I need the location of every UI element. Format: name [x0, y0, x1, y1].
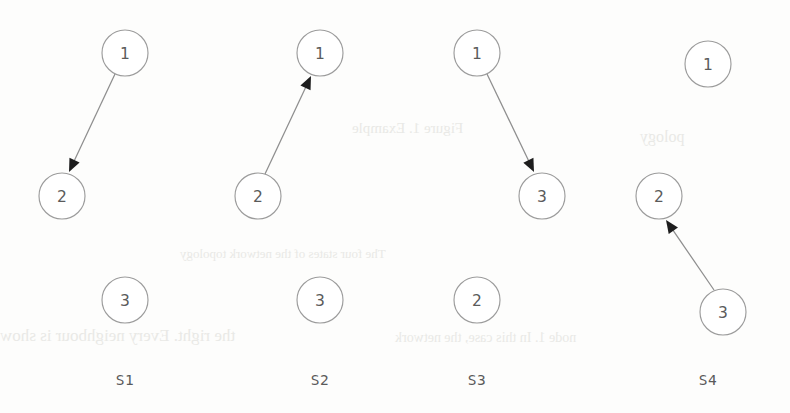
- node-label: 3: [315, 292, 325, 310]
- edge-1-to-2: [69, 74, 115, 172]
- edge-3-to-2: [666, 220, 714, 290]
- graph-node[interactable]: 3: [102, 277, 148, 323]
- graph-node[interactable]: 3: [700, 289, 746, 335]
- figure-canvas: Figure 1. ExamplepologyThe four states o…: [0, 0, 790, 413]
- edge-line: [670, 226, 714, 290]
- graphs-svg: 123123132123: [0, 0, 790, 413]
- graph-node[interactable]: 1: [297, 30, 343, 76]
- panel-caption-s3: S3: [468, 372, 487, 388]
- graph-panel-s4: 123: [636, 41, 746, 335]
- graph-panel-s3: 132: [454, 30, 565, 323]
- graph-node[interactable]: 2: [235, 173, 281, 219]
- node-label: 2: [57, 188, 67, 206]
- arrow-head-icon: [666, 220, 678, 234]
- node-label: 1: [315, 45, 325, 63]
- node-label: 1: [472, 45, 482, 63]
- panel-caption-s4: S4: [699, 372, 718, 388]
- graph-node[interactable]: 1: [454, 30, 500, 76]
- panel-caption-s2: S2: [311, 372, 330, 388]
- graph-node[interactable]: 1: [685, 41, 731, 87]
- node-label: 2: [472, 292, 482, 310]
- edge-1-to-3: [487, 74, 534, 172]
- graph-node[interactable]: 1: [102, 30, 148, 76]
- graph-node[interactable]: 2: [39, 173, 85, 219]
- panel-caption-s1: S1: [116, 372, 135, 388]
- node-label: 2: [654, 188, 664, 206]
- edge-2-to-1: [265, 76, 311, 174]
- graph-panel-s1: 123: [39, 30, 148, 323]
- edge-line: [487, 74, 531, 166]
- edge-line: [72, 74, 115, 166]
- graph-node[interactable]: 3: [297, 277, 343, 323]
- graph-node[interactable]: 2: [454, 277, 500, 323]
- node-label: 3: [718, 304, 728, 322]
- node-label: 3: [120, 292, 130, 310]
- graph-node[interactable]: 3: [519, 173, 565, 219]
- graph-node[interactable]: 2: [636, 173, 682, 219]
- node-label: 3: [537, 188, 547, 206]
- graph-panel-s2: 123: [235, 30, 343, 323]
- node-label: 2: [253, 188, 263, 206]
- edge-line: [265, 82, 308, 174]
- node-label: 1: [703, 56, 713, 74]
- node-label: 1: [120, 45, 130, 63]
